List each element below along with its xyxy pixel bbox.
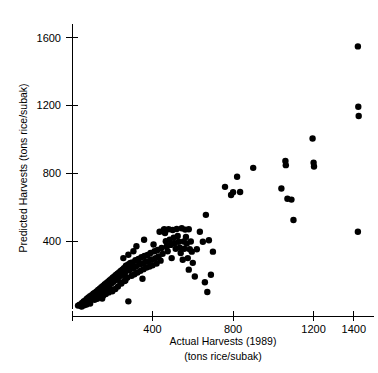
data-point [309, 135, 315, 141]
data-point [206, 237, 212, 243]
data-point [188, 238, 194, 244]
data-point [230, 189, 236, 195]
data-point [290, 217, 296, 223]
x-axis-units: (tons rice/subak) [184, 350, 262, 362]
y-axis-tick-labels: 40080012001600 [37, 32, 61, 248]
data-point [186, 226, 192, 232]
x-tick-label: 800 [224, 323, 242, 335]
data-point [355, 104, 361, 110]
data-point [117, 280, 123, 286]
data-point [355, 229, 361, 235]
data-point [186, 266, 192, 272]
data-point [192, 273, 198, 279]
data-point [108, 287, 114, 293]
data-point [202, 279, 208, 285]
data-point [283, 162, 289, 168]
data-point [139, 276, 145, 282]
y-tick-label: 1200 [37, 99, 61, 111]
data-point [185, 255, 191, 261]
y-axis-group: 40080012001600 [37, 24, 78, 309]
scatter-plot-figure: 40080012001600 40080012001400 Predicted … [0, 0, 378, 373]
data-point [250, 165, 256, 171]
plot-canvas: 40080012001600 40080012001400 Predicted … [0, 0, 378, 373]
data-point [237, 189, 243, 195]
data-point [356, 113, 362, 119]
x-axis-group: 40080012001400 [72, 311, 374, 335]
data-point [125, 298, 131, 304]
data-point [311, 163, 317, 169]
data-point [164, 248, 170, 254]
x-axis-tick-labels: 40080012001400 [143, 323, 366, 335]
y-tick-label: 400 [43, 235, 61, 247]
y-tick-label: 1600 [37, 32, 61, 44]
data-point [204, 289, 210, 295]
data-point [183, 234, 189, 240]
data-point [278, 185, 284, 191]
data-point [208, 272, 214, 278]
x-tick-label: 1400 [342, 323, 366, 335]
data-point [141, 237, 147, 243]
data-points-layer [75, 43, 362, 309]
data-point [78, 303, 84, 309]
data-point [168, 255, 174, 261]
data-point [194, 246, 200, 252]
x-tick-label: 1200 [301, 323, 325, 335]
data-point [175, 233, 181, 239]
data-point [190, 260, 196, 266]
data-point [197, 229, 203, 235]
data-point [99, 295, 105, 301]
data-point [234, 173, 240, 179]
data-point [157, 257, 163, 263]
y-tick-label: 800 [43, 167, 61, 179]
data-point [355, 43, 361, 49]
data-point [210, 248, 216, 254]
data-point [130, 248, 136, 254]
data-point [200, 239, 206, 245]
data-point [288, 196, 294, 202]
data-point [222, 184, 228, 190]
data-point [203, 212, 209, 218]
x-tick-label: 400 [143, 323, 161, 335]
data-point [150, 241, 156, 247]
x-axis-title: Actual Harvests (1989) [170, 335, 277, 347]
y-axis-title: Predicted Harvests (tons rice/subak) [17, 83, 29, 252]
